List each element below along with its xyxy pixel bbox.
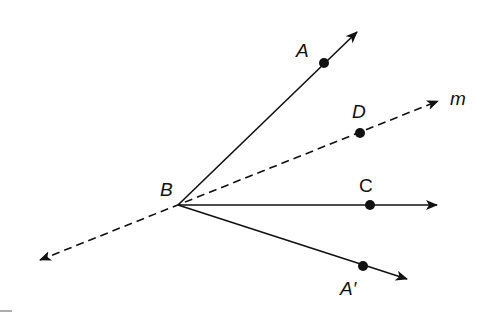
label-D: D: [352, 101, 366, 122]
point-C: [365, 200, 375, 210]
line-m: [40, 101, 438, 260]
label-B: B: [160, 179, 173, 200]
label-A-prime: A′: [339, 278, 358, 299]
label-C: C: [359, 175, 373, 196]
label-A: A: [295, 40, 309, 61]
point-D: [355, 128, 365, 138]
label-m: m: [450, 88, 466, 109]
ray-BA-prime: [178, 205, 407, 279]
reflection-diagram: A D m B C A′: [0, 0, 490, 323]
point-A: [319, 58, 329, 68]
ray-BA: [178, 32, 357, 205]
point-A-prime: [358, 261, 368, 271]
